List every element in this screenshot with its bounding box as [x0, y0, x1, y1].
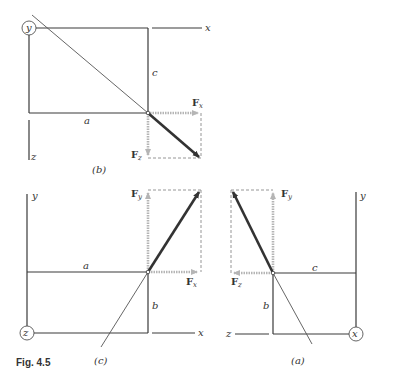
fx-label: Fx — [192, 97, 203, 110]
force-arrow — [148, 192, 199, 272]
origin-z-label: z — [22, 327, 29, 338]
fz-label: Fz — [231, 276, 242, 289]
application-point — [271, 271, 275, 275]
panel-b: y x z c a Fx Fz (b) — [22, 15, 211, 175]
dim-c-label: c — [312, 262, 318, 273]
dim-a-label: a — [84, 115, 90, 126]
panel-c: y z x a b Fy Fx (c) — [20, 188, 204, 366]
panel-a: y x z c b Fy Fz (a) — [225, 188, 366, 366]
dim-b-label: b — [152, 300, 158, 311]
figure-label: Fig. 4.5 — [16, 357, 50, 368]
force-components-figure: y x z c a Fx Fz (b) y — [0, 0, 394, 386]
force-arrow — [148, 113, 199, 157]
dim-c-label: c — [152, 67, 158, 78]
dim-b-label: b — [263, 300, 269, 311]
z-axis-label: z — [225, 328, 232, 339]
z-axis-label: z — [30, 151, 37, 162]
fz-label: Fz — [131, 149, 142, 162]
force-arrow — [233, 192, 273, 273]
fy-label: Fy — [281, 188, 293, 201]
caption-b: (b) — [92, 164, 106, 175]
caption-c: (c) — [94, 355, 108, 366]
line-of-action — [32, 15, 148, 113]
x-axis-label: x — [198, 327, 204, 338]
origin-y-label: y — [25, 22, 32, 33]
application-point — [146, 270, 150, 274]
fy-label: Fy — [131, 188, 143, 201]
y-axis-label: y — [359, 190, 366, 201]
origin-x-label: x — [352, 328, 358, 339]
y-axis-label: y — [31, 190, 38, 201]
fx-label: Fx — [186, 276, 197, 289]
dim-a-label: a — [83, 260, 89, 271]
x-axis-label: x — [205, 22, 211, 33]
caption-a: (a) — [291, 355, 305, 366]
application-point — [146, 111, 150, 115]
line-of-action — [273, 273, 312, 344]
line-of-action — [101, 272, 148, 347]
